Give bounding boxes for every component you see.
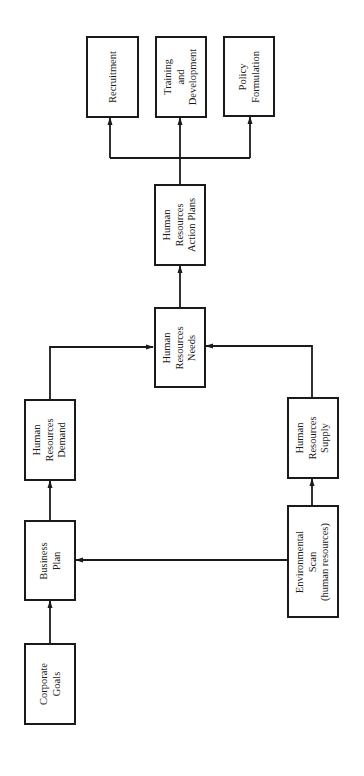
node-hr-supply: Human Resources Supply [287,397,339,479]
node-label: Business Plan [38,542,63,579]
node-label: Training and Development [162,49,200,106]
node-label: Policy Formulation [237,51,262,103]
node-label: Human Resources Supply [294,416,332,459]
edge-demand-to-needs [50,347,153,399]
node-label: Corporate Goals [38,663,63,705]
node-corporate-goals: Corporate Goals [24,643,76,725]
node-hr-needs: Human Resources Needs [154,307,206,388]
node-business-plan: Business Plan [24,520,76,601]
node-label: Recruitment [106,51,119,103]
node-hr-action-plans: Human Resources Action Plans [154,184,206,266]
edge-supply-to-needs [206,346,312,397]
node-label: Human Resources Action Plans [161,198,199,252]
node-label: Environmental Scan (human resources) [294,523,332,601]
node-label: Human Resources Demand [31,418,69,461]
node-hr-demand: Human Resources Demand [24,399,76,481]
node-label: Human Resources Needs [161,326,199,369]
node-training-development: Training and Development [155,36,207,118]
node-environmental-scan: Environmental Scan (human resources) [287,505,339,618]
node-policy-formulation: Policy Formulation [223,36,275,117]
node-recruitment: Recruitment [86,36,139,118]
